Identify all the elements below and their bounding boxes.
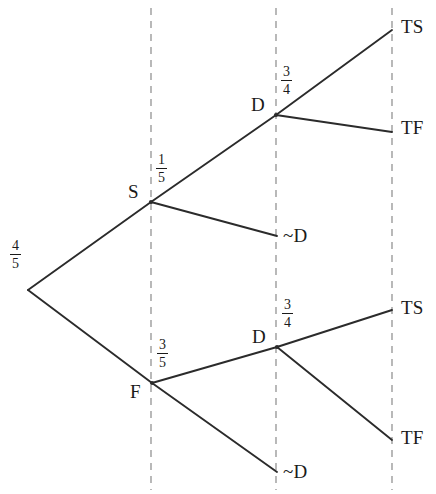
- node-dot-s: [149, 200, 153, 204]
- edge-s-to-d: [151, 115, 276, 202]
- node-label-d-upper: D: [251, 95, 265, 114]
- node-dot-d-lower: [275, 345, 279, 349]
- edge-d-lower-to-ts: [277, 310, 392, 347]
- leaf-label-ts-upper: TS: [401, 17, 424, 36]
- edge-s-to-notd: [151, 202, 277, 236]
- edge-d-upper-to-ts: [276, 30, 392, 115]
- leaf-label-ts-lower: TS: [401, 298, 424, 317]
- node-label-d-lower: D: [252, 327, 266, 346]
- fraction-numerator: 3: [157, 337, 168, 352]
- probability-f-to-notd: 3 5: [157, 337, 168, 370]
- node-dot-f: [150, 381, 154, 385]
- tree-canvas: [0, 0, 436, 494]
- node-label-f: F: [130, 382, 141, 401]
- leaf-label-tf-upper: TF: [401, 118, 424, 137]
- fraction-denominator: 5: [157, 355, 168, 370]
- fraction-denominator: 5: [156, 170, 167, 185]
- leaf-label-tf-lower: TF: [401, 428, 424, 447]
- node-dot-d-upper: [274, 113, 278, 117]
- leaf-label-not-d-upper: ~D: [283, 226, 307, 245]
- probability-s-to-d: 3 4: [281, 64, 292, 97]
- edge-d-lower-to-tf: [277, 347, 392, 440]
- fraction-numerator: 4: [10, 238, 21, 253]
- fraction-denominator: 4: [282, 315, 293, 330]
- probability-root-to-f: 4 5: [10, 238, 21, 271]
- fraction-numerator: 3: [281, 64, 292, 79]
- probability-tree-diagram: S F D D ~D ~D TS TF TS TF 4 5 1 5 3 4 3 …: [0, 0, 436, 494]
- probability-root-to-s: 1 5: [156, 152, 167, 185]
- node-label-s: S: [128, 182, 139, 201]
- fraction-numerator: 3: [282, 297, 293, 312]
- edge-root-to-f: [28, 290, 152, 383]
- probability-f-to-d: 3 4: [282, 297, 293, 330]
- fraction-bar: [10, 254, 21, 255]
- fraction-bar: [281, 80, 292, 81]
- leaf-label-not-d-lower: ~D: [283, 462, 307, 481]
- edge-d-upper-to-tf: [276, 115, 392, 132]
- edge-f-to-notd: [152, 383, 277, 472]
- fraction-bar: [282, 313, 293, 314]
- edge-root-to-s: [28, 202, 151, 290]
- fraction-denominator: 5: [10, 256, 21, 271]
- fraction-bar: [156, 168, 167, 169]
- fraction-bar: [157, 353, 168, 354]
- edge-f-to-d: [152, 347, 277, 383]
- fraction-denominator: 4: [281, 82, 292, 97]
- fraction-numerator: 1: [156, 152, 167, 167]
